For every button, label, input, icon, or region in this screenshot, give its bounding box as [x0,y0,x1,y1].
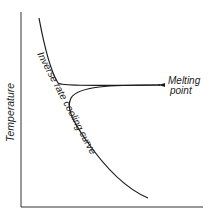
inverse-rate-cooling-diagram: Temperature Inverse rate cooling curve M… [0,0,214,210]
melting-point-label-line2: point [169,85,193,96]
curve-label: Inverse rate cooling curve [35,50,99,157]
y-axis-label: Temperature [4,83,16,142]
arrowhead-icon [159,83,165,87]
